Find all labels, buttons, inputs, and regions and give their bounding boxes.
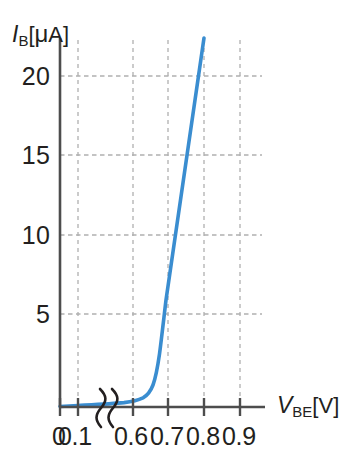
x-axis-title: VBE[V] xyxy=(277,394,339,417)
xtick-label-0.9: 0.9 xyxy=(222,424,256,449)
ytick-label-10: 10 xyxy=(10,223,50,248)
y-axis-unit-mu: μ xyxy=(35,20,49,47)
x-axis-unit: [V] xyxy=(312,393,339,418)
ytick-label-20: 20 xyxy=(10,64,50,89)
y-axis-unit-rest: A] xyxy=(48,22,69,47)
y-axis-title: IB[μA] xyxy=(12,22,69,46)
x-axis-subscript: BE xyxy=(292,403,312,420)
y-axis-subscript: B xyxy=(18,32,28,49)
xtick-label-0.1: 0.1 xyxy=(58,424,92,449)
xtick-label-0.6: 0.6 xyxy=(114,424,148,449)
xtick-label-0.8: 0.8 xyxy=(186,424,220,449)
chart-figure: IB[μA] VBE[V] 20 15 10 5 0 0.1 0.6 0.7 0… xyxy=(0,0,346,464)
data-curve-ib-vbe xyxy=(60,38,204,407)
ytick-label-5: 5 xyxy=(10,302,50,327)
horizontal-gridlines xyxy=(60,76,262,314)
x-axis-symbol: V xyxy=(277,392,292,418)
xtick-label-0.7: 0.7 xyxy=(150,424,184,449)
ytick-label-15: 15 xyxy=(10,143,50,168)
